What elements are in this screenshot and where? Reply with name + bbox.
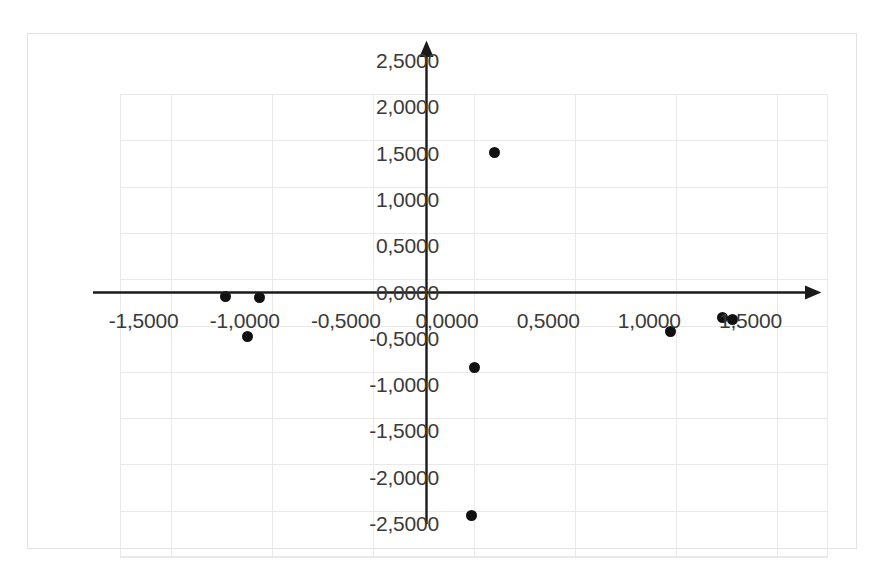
y-tick-label: -0,5000 [28, 327, 439, 351]
x-tick-label: 1,0000 [618, 309, 681, 333]
y-tick-label: 0,5000 [28, 234, 439, 258]
y-tick-label: 2,0000 [28, 95, 439, 119]
x-tick-label: 1,5000 [719, 309, 782, 333]
x-tick-label: 0,5000 [517, 309, 580, 333]
y-tick-label: 1,0000 [28, 188, 439, 212]
gridline-horizontal [120, 557, 828, 558]
data-point[interactable] [466, 510, 477, 521]
y-tick-label: 2,5000 [28, 49, 439, 73]
y-tick-label: -2,5000 [28, 512, 439, 536]
y-tick-label: -1,5000 [28, 419, 439, 443]
y-tick-label: -1,0000 [28, 373, 439, 397]
chart-frame: -1,5000-1,0000-0,50000,00000,50001,00001… [27, 33, 857, 549]
y-tick-label: -2,0000 [28, 466, 439, 490]
data-point[interactable] [489, 147, 500, 158]
y-tick-label: 1,5000 [28, 142, 439, 166]
data-point[interactable] [469, 362, 480, 373]
y-tick-label: 0,0000 [28, 281, 439, 305]
